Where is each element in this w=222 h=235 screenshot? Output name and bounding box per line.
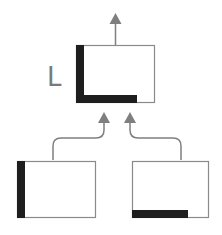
bottom-left-node-box [17,161,96,218]
diagram-svg [0,0,222,235]
top-node-box [76,45,155,103]
output-arrow [110,13,122,45]
diagram-canvas: L [0,0,222,235]
result-label: L [47,62,62,92]
bottom-right-node-box [132,162,209,219]
left-input-arrow [53,112,110,160]
bottom-left-vertical-bar [17,161,25,218]
bottom-right-horizontal-bar [132,210,188,218]
top-bottom-bar [76,95,137,103]
top-left-bar [76,45,84,103]
right-input-arrow [124,112,181,160]
